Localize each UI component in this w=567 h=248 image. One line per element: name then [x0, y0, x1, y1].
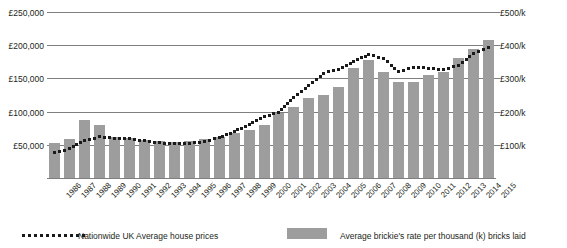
data-point-dot — [183, 142, 186, 145]
data-point-dot — [465, 58, 468, 61]
bar — [363, 60, 374, 178]
y-axis-left-tick-label: £250,000 — [0, 8, 44, 18]
data-point-dot — [457, 64, 460, 67]
data-point-dot — [113, 137, 116, 140]
data-point-dot — [360, 56, 363, 59]
data-point-dot — [63, 149, 66, 152]
data-point-dot — [319, 75, 322, 78]
data-point-dot — [168, 142, 171, 145]
y-axis-left-tick-label: £100,000 — [0, 108, 44, 118]
data-point-dot — [53, 151, 56, 154]
data-point-dot — [393, 67, 396, 70]
data-point-dot — [427, 67, 430, 70]
legend-label-brickie-rate: Average brickie's rate per thousand (k) … — [340, 231, 526, 241]
data-point-dot — [352, 60, 355, 63]
data-point-dot — [213, 137, 216, 140]
data-point-dot — [128, 137, 131, 140]
data-point-dot — [437, 68, 440, 71]
data-point-dot — [277, 111, 280, 114]
x-axis-tick-label: 2015 — [499, 181, 518, 200]
y-axis-right-tick-label: £400/k — [500, 41, 526, 51]
data-point-dot — [173, 142, 176, 145]
data-point-dot — [337, 68, 340, 71]
data-point-dot — [68, 147, 71, 150]
data-point-dot — [218, 136, 221, 139]
data-point-dot — [417, 66, 420, 69]
x-axis-tick-label: 2007 — [379, 181, 398, 200]
bar — [438, 72, 449, 178]
y-axis-right-tick-label: £200/k — [500, 108, 526, 118]
data-point-dot — [79, 141, 82, 144]
data-point-dot — [236, 128, 239, 131]
bar — [378, 72, 389, 178]
data-point-dot — [229, 132, 232, 135]
data-point-dot — [364, 55, 367, 58]
data-point-dot — [332, 69, 335, 72]
data-point-dot — [382, 57, 385, 60]
data-point-dot — [255, 119, 258, 122]
data-point-dot — [300, 90, 303, 93]
gridline — [47, 12, 496, 13]
bar — [124, 138, 135, 178]
bar — [184, 141, 195, 178]
data-point-dot — [153, 141, 156, 144]
data-point-dot — [452, 65, 455, 68]
data-point-dot — [259, 117, 262, 120]
data-point-dot — [386, 60, 389, 63]
data-point-dot — [198, 141, 201, 144]
data-point-dot — [422, 66, 425, 69]
y-axis-right-tick-label: £500/k — [500, 8, 526, 18]
data-point-dot — [123, 137, 126, 140]
bar — [483, 40, 494, 178]
legend-marker-bar-swatch — [287, 228, 327, 239]
y-axis-left-tick-label: £50,000 — [0, 141, 44, 151]
data-point-dot — [244, 125, 247, 128]
data-point-dot — [203, 140, 206, 143]
x-axis-tick-label: 2002 — [304, 181, 323, 200]
plot-area — [47, 12, 496, 178]
x-axis-tick-label: 2003 — [319, 181, 338, 200]
data-point-dot — [367, 53, 370, 56]
data-point-dot — [304, 87, 307, 90]
data-point-dot — [103, 136, 106, 139]
bar — [139, 140, 150, 178]
y-axis-right-tick — [496, 145, 500, 146]
bar — [273, 113, 284, 178]
data-point-dot — [280, 108, 283, 111]
x-axis-tick-label: 2004 — [334, 181, 353, 200]
data-point-dot — [93, 137, 96, 140]
data-point-dot — [188, 142, 191, 145]
data-point-dot — [407, 67, 410, 70]
x-axis-tick-label: 2014 — [484, 181, 503, 200]
data-point-dot — [98, 135, 101, 138]
data-point-dot — [263, 115, 266, 118]
data-point-dot — [447, 67, 450, 70]
data-point-dot — [272, 112, 275, 115]
data-point-dot — [322, 72, 325, 75]
data-point-dot — [477, 50, 480, 53]
x-axis-tick-label: 2011 — [439, 181, 458, 200]
data-point-dot — [72, 145, 75, 148]
data-point-dot — [193, 141, 196, 144]
data-point-dot — [390, 64, 393, 67]
data-point-dot — [178, 142, 181, 145]
x-axis-tick-label: 2000 — [274, 181, 293, 200]
data-point-dot — [58, 150, 61, 153]
y-axis-right-tick — [496, 12, 500, 13]
bar — [468, 49, 479, 178]
y-axis-left-tick-label: £200,000 — [0, 41, 44, 51]
data-point-dot — [487, 46, 490, 49]
y-axis-right-tick-label: £100/k — [500, 141, 526, 151]
data-point-dot — [432, 67, 435, 70]
data-point-dot — [349, 62, 352, 65]
bar — [288, 107, 299, 178]
data-point-dot — [372, 54, 375, 57]
bar — [408, 82, 419, 178]
bar — [423, 75, 434, 178]
y-axis-right-tick — [496, 78, 500, 79]
data-point-dot — [248, 123, 251, 126]
data-point-dot — [138, 139, 141, 142]
y-axis-right-tick — [496, 112, 500, 113]
x-axis-tick-label: 2009 — [409, 181, 428, 200]
data-point-dot — [345, 64, 348, 67]
